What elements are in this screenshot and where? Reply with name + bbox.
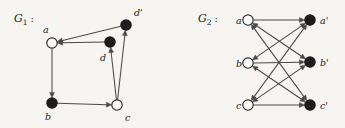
graph-title-g1: G1: [14,12,34,27]
node-label-G2-bp: b' [320,57,329,68]
edges-layer [50,18,307,108]
node-G2-cp[interactable] [305,100,315,110]
node-label-G2-c: c [236,100,242,111]
graph-title-g1-sub: 1 [23,18,28,27]
arrowhead-G1-b-to-c [106,102,111,107]
graph-svg-canvas: abcdd'abca'b'c' G1: G2: [0,0,345,128]
node-label-G2-b: b [236,58,242,69]
graph-title-g2-sub: 2 [207,18,212,27]
arrowhead-G2-b-to-bp [299,60,304,65]
edge-G1-c-to-d [111,52,116,100]
node-G1-c[interactable] [112,100,122,110]
node-G2-b[interactable] [243,58,253,68]
node-G2-ap[interactable] [305,15,315,25]
arrowhead-G1-c-to-d [109,47,114,53]
node-label-G1-d: d [100,52,106,63]
edge-G1-c-to-dp [118,35,125,100]
node-label-G1-c: c [125,112,131,123]
edge-G1-b-to-c [57,103,107,105]
arrowhead-G2-ap-to-b [252,55,258,60]
arrowhead-G1-c-to-dp [122,30,127,36]
node-label-G1-b: b [45,111,51,122]
arrowhead-G2-c-to-bp [300,65,306,70]
node-label-G2-ap: a' [320,15,328,26]
graph-title-g1-main: G [14,12,23,25]
edge-G1-d-to-a [62,42,105,43]
node-label-G1-a: a [43,24,49,35]
arrowhead-G2-a-to-ap [299,18,304,23]
node-label-G1-dp: d' [134,7,143,18]
labels-layer: abcdd'abca'b'c' [43,7,329,123]
edge-G2-b-to-bp [253,62,300,63]
node-G2-bp[interactable] [305,57,315,67]
graph-title-g2-colon: : [215,13,218,24]
node-G1-dp[interactable] [121,20,131,30]
graph-title-g1-colon: : [31,13,34,24]
arrowhead-G2-a-to-bp [300,54,306,59]
node-G1-a[interactable] [47,38,57,48]
node-G2-c[interactable] [243,100,253,110]
node-label-G2-a: a [236,15,242,26]
node-G1-b[interactable] [47,98,57,108]
graph-figure: abcdd'abca'b'c' G1: G2: [0,0,345,128]
graph-title-g2: G2: [198,12,218,27]
node-G2-a[interactable] [243,15,253,25]
node-G1-d[interactable] [105,37,115,47]
arrowhead-G2-cp-to-b [252,66,258,71]
node-label-G2-cp: c' [320,100,328,111]
arrowhead-G1-a-to-b [50,92,55,97]
graph-title-g2-main: G [198,12,207,25]
arrowhead-G2-c-to-cp [299,103,304,108]
